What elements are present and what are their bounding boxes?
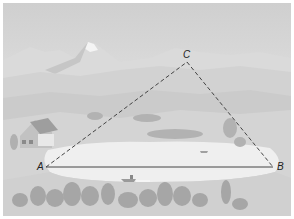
vertex-label-a: A — [37, 162, 44, 172]
vertex-label-b: B — [277, 162, 284, 172]
landscape-diagram — [3, 3, 291, 216]
landscape-illustration — [3, 3, 291, 216]
lake — [44, 142, 279, 182]
vertex-label-c: C — [183, 50, 190, 60]
small-boat — [200, 151, 208, 153]
